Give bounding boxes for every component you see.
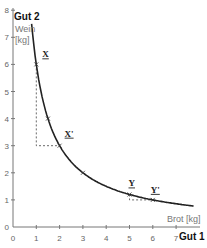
y-tick-label: 1 — [5, 196, 10, 205]
x-tick-label: 2 — [57, 234, 62, 243]
y-tick-label: 0 — [5, 223, 10, 232]
x-tick-label: 4 — [104, 234, 109, 243]
y-tick-label: 8 — [5, 6, 10, 15]
point-label: X — [42, 49, 49, 59]
dashed-guide — [36, 64, 59, 145]
y-axis-unit: [kg] — [15, 35, 30, 45]
y-tick-label: 7 — [5, 33, 10, 42]
point-label: Y — [129, 178, 136, 188]
y-tick-label: 5 — [5, 88, 10, 97]
y-tick-label: 4 — [5, 115, 10, 124]
indifference-curve — [32, 24, 194, 206]
y-tick-label: 6 — [5, 60, 10, 69]
cross-marker-icon — [81, 171, 85, 175]
indifference-curve-chart: 012345678 01234567 XX'YY' Gut 2 Wein [kg… — [0, 0, 207, 248]
y-axis-name: Wein — [15, 24, 35, 34]
x-tick-label: 3 — [81, 234, 86, 243]
x-tick-label: 6 — [151, 234, 156, 243]
x-tick-label: 5 — [127, 234, 132, 243]
y-tick-label: 3 — [5, 142, 10, 151]
x-axis-name: Brot [kg] — [167, 214, 201, 224]
point-label: Y' — [151, 185, 160, 195]
x-tick-label: 0 — [11, 234, 16, 243]
y-tick-label: 2 — [5, 169, 10, 178]
x-tick-label: 1 — [34, 234, 39, 243]
point-label: X' — [65, 129, 74, 139]
x-axis-title: Gut 1 — [179, 231, 205, 242]
x-ticks: 01234567 — [11, 225, 179, 243]
point-labels: XX'YY' — [42, 49, 160, 195]
axes — [13, 8, 200, 227]
y-axis-title: Gut 2 — [14, 11, 40, 22]
